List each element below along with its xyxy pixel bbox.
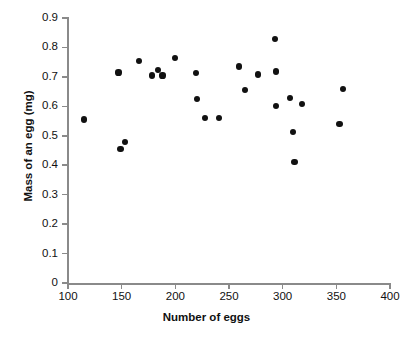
data-point bbox=[81, 116, 87, 122]
y-axis-tick bbox=[62, 17, 67, 19]
data-point bbox=[122, 139, 128, 145]
y-axis-tick bbox=[62, 47, 67, 49]
y-axis-tick bbox=[62, 253, 67, 255]
data-point bbox=[236, 63, 242, 69]
x-axis-tick-label: 300 bbox=[263, 291, 303, 303]
y-axis-tick-label: 0.8 bbox=[18, 41, 58, 53]
data-point bbox=[242, 87, 248, 93]
y-axis-tick bbox=[62, 223, 67, 225]
data-point bbox=[172, 55, 178, 61]
data-point bbox=[290, 129, 296, 135]
x-axis-tick-label: 150 bbox=[102, 291, 142, 303]
data-point bbox=[117, 146, 123, 152]
data-point bbox=[115, 69, 121, 75]
data-point bbox=[272, 36, 278, 42]
y-axis-title: Mass of an egg (mg) bbox=[22, 56, 34, 236]
x-axis-tick bbox=[228, 284, 230, 289]
data-point bbox=[194, 96, 200, 102]
x-axis-tick-label: 250 bbox=[209, 291, 249, 303]
x-axis-tick-label: 350 bbox=[316, 291, 356, 303]
data-point bbox=[255, 71, 261, 77]
y-axis-tick-label: 0.9 bbox=[18, 12, 58, 24]
y-axis-tick bbox=[62, 76, 67, 78]
x-axis-tick bbox=[389, 284, 391, 289]
data-point bbox=[287, 95, 293, 101]
x-axis-tick bbox=[282, 284, 284, 289]
y-axis-tick bbox=[62, 164, 67, 166]
y-axis-tick bbox=[62, 106, 67, 108]
data-point bbox=[149, 72, 155, 78]
x-axis-tick bbox=[175, 284, 177, 289]
data-point bbox=[216, 115, 222, 121]
scatter-plot-figure: 00.10.20.30.40.50.60.70.80.9 10015020025… bbox=[0, 0, 413, 337]
data-point bbox=[273, 68, 279, 74]
data-point bbox=[336, 121, 342, 127]
data-point bbox=[291, 159, 297, 165]
y-axis-tick bbox=[62, 194, 67, 196]
x-axis-tick bbox=[67, 284, 69, 289]
y-axis-tick-label: 0 bbox=[18, 277, 58, 289]
x-axis-tick-label: 400 bbox=[370, 291, 410, 303]
x-axis-tick-label: 200 bbox=[155, 291, 195, 303]
x-axis-title: Number of eggs bbox=[0, 311, 413, 323]
y-axis-tick bbox=[62, 135, 67, 137]
x-axis-tick bbox=[336, 284, 338, 289]
x-axis-tick-label: 100 bbox=[48, 291, 88, 303]
y-axis-tick-label: 0.1 bbox=[18, 248, 58, 260]
data-point bbox=[299, 101, 305, 107]
data-point bbox=[340, 86, 346, 92]
plot-area bbox=[68, 18, 390, 283]
data-point bbox=[136, 58, 142, 64]
x-axis-tick bbox=[121, 284, 123, 289]
data-point bbox=[159, 72, 165, 78]
data-point bbox=[193, 70, 199, 76]
data-point bbox=[273, 103, 279, 109]
y-axis-tick bbox=[62, 282, 67, 284]
data-point bbox=[202, 115, 208, 121]
